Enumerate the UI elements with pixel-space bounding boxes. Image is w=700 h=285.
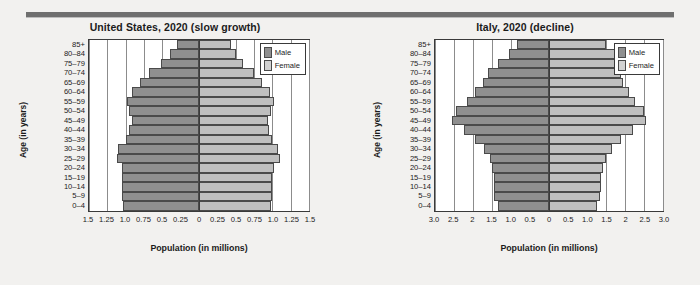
x-axis-tick-label: 3.0 [429, 215, 440, 224]
x-axis-tick-label: 2 [624, 215, 628, 224]
bar-male [177, 40, 199, 49]
axis-center-line [199, 40, 200, 211]
x-axis-ticks-united-states: 1.51.251.00.750.50.2500.250.50.751.01.25… [88, 212, 310, 226]
bar-male [490, 154, 549, 163]
y-axis-tick-label: 65–69 [410, 79, 431, 87]
bar-male [132, 87, 199, 96]
y-axis-label-italy: Age (in years) [372, 85, 382, 175]
bar-female [549, 87, 629, 96]
x-axis-tick-label: 0.5 [231, 215, 242, 224]
y-axis-tick-label: 40–44 [64, 126, 85, 134]
bar-male [509, 49, 549, 58]
bar-female [199, 49, 236, 58]
bar-female [549, 106, 644, 115]
y-axis-tick-label: 50–54 [64, 107, 85, 115]
bar-male [475, 87, 549, 96]
bar-male [464, 125, 550, 134]
y-axis-tick-label: 15–19 [410, 174, 431, 182]
x-axis-tick-label: 0.25 [210, 215, 225, 224]
x-axis-tick-label: 1.0 [582, 215, 593, 224]
bar-male [122, 163, 199, 172]
bar-male [122, 182, 199, 191]
bar-female [549, 40, 606, 49]
legend-label-female: Female [275, 62, 300, 70]
y-axis-label-united-states: Age (in years) [18, 85, 28, 175]
bar-male [492, 163, 549, 172]
y-axis-tick-label: 60–64 [410, 88, 431, 96]
y-axis-tick-label: 30–34 [64, 145, 85, 153]
bar-male [161, 59, 199, 68]
legend-swatch-female-icon [264, 60, 272, 71]
bar-female [199, 192, 272, 201]
bar-female [549, 163, 603, 172]
legend-swatch-female-icon [618, 60, 626, 71]
chart-title-united-states: United States, 2020 (slow growth) [0, 21, 350, 33]
bar-female [199, 144, 278, 153]
bar-female [199, 59, 243, 68]
x-axis-tick-label: 2 [470, 215, 474, 224]
y-axis-tick-label: 0–4 [418, 202, 431, 210]
legend-item-female: Female [618, 60, 654, 71]
y-axis-tick-label: 30–34 [410, 145, 431, 153]
figure-container: United States, 2020 (slow growth) Age (i… [0, 17, 700, 285]
y-axis-tick-label: 25–29 [64, 155, 85, 163]
x-axis-tick-label: 3.0 [659, 215, 670, 224]
x-axis-tick-label: 1.5 [486, 215, 497, 224]
bar-female [199, 78, 262, 87]
bar-male [483, 78, 550, 87]
y-axis-tick-label: 25–29 [410, 155, 431, 163]
legend-item-female: Female [264, 60, 300, 71]
bar-female [199, 182, 272, 191]
legend-label-male: Male [275, 49, 291, 57]
bar-male [498, 59, 549, 68]
y-axis-tick-label: 35–39 [64, 136, 85, 144]
y-axis-tick-label: 70–74 [64, 69, 85, 77]
plot-wrapper-united-states: Male Female 85+80–8475–7970–7465–6960–64… [88, 39, 310, 212]
legend-italy: Male Female [614, 43, 660, 75]
y-axis-tick-label: 85+ [72, 41, 85, 49]
bar-female [199, 106, 271, 115]
x-axis-tick-label: 2.5 [448, 215, 459, 224]
bar-female [549, 154, 606, 163]
legend-label-female: Female [629, 62, 654, 70]
bar-female [199, 173, 272, 182]
bar-male [129, 125, 199, 134]
bar-male [517, 40, 549, 49]
bar-female [199, 163, 274, 172]
chart-panel-italy: Italy, 2020 (decline) Age (in years) Mal… [350, 17, 700, 285]
bar-female [549, 116, 646, 125]
grid-line [663, 40, 664, 211]
bar-male [117, 154, 199, 163]
y-axis-tick-label: 10–14 [64, 183, 85, 191]
bar-female [549, 78, 623, 87]
bar-female [549, 59, 619, 68]
bar-female [549, 144, 612, 153]
legend-swatch-male-icon [264, 47, 272, 58]
x-axis-tick-label: 1.0 [505, 215, 516, 224]
bar-female [199, 135, 272, 144]
y-axis-tick-label: 10–14 [410, 183, 431, 191]
x-axis-tick-label: 0.75 [136, 215, 151, 224]
x-axis-tick-label: 0 [197, 215, 201, 224]
y-axis-tick-label: 20–24 [410, 164, 431, 172]
bar-female [199, 201, 271, 210]
bar-male [498, 201, 549, 210]
bar-female [199, 154, 280, 163]
x-axis-tick-label: 0.25 [173, 215, 188, 224]
bar-female [199, 97, 274, 106]
y-axis-tick-label: 20–24 [64, 164, 85, 172]
bar-female [199, 87, 270, 96]
y-axis-tick-label: 55–59 [410, 98, 431, 106]
x-axis-label-united-states: Population (in millions) [88, 243, 310, 253]
bar-male [122, 192, 199, 201]
grid-line [309, 40, 310, 211]
chart-panel-united-states: United States, 2020 (slow growth) Age (i… [0, 17, 350, 285]
x-axis-tick-label: 1.5 [601, 215, 612, 224]
bar-male [126, 135, 199, 144]
bar-female [549, 182, 601, 191]
y-axis-tick-label: 80–84 [410, 50, 431, 58]
bar-female [549, 201, 597, 210]
bar-female [199, 68, 254, 77]
chart-title-italy: Italy, 2020 (decline) [350, 21, 700, 33]
x-axis-tick-label: 0.5 [525, 215, 536, 224]
